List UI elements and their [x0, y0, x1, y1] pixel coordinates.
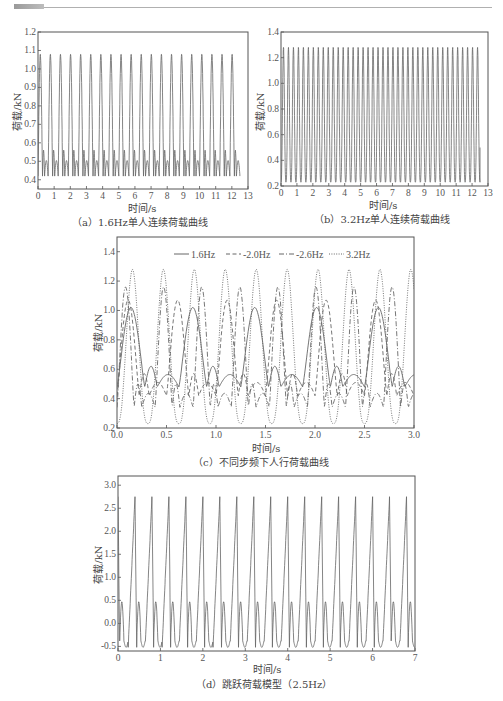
svg-text:7: 7 [413, 653, 418, 663]
svg-text:0.8: 0.8 [24, 101, 36, 111]
svg-text:10: 10 [435, 188, 445, 198]
series-1.6Hz [38, 54, 240, 176]
svg-text:1: 1 [158, 653, 163, 663]
svg-text:11: 11 [211, 191, 220, 201]
svg-text:0.8: 0.8 [103, 335, 115, 345]
svg-text:0.4: 0.4 [103, 394, 115, 404]
svg-text:1.6Hz: 1.6Hz [191, 249, 216, 260]
svg-text:5: 5 [358, 188, 363, 198]
svg-text:6: 6 [370, 653, 375, 663]
svg-text:1.4: 1.4 [103, 247, 115, 257]
svg-text:2.5: 2.5 [104, 503, 116, 513]
svg-text:1: 1 [295, 188, 300, 198]
svg-text:0.5: 0.5 [104, 595, 116, 605]
chart-b-axes: 0123456789101112130.20.40.60.81.01.21.4 [267, 27, 493, 198]
svg-text:0.7: 0.7 [24, 119, 36, 129]
svg-text:4: 4 [100, 191, 105, 201]
svg-text:0.0: 0.0 [104, 618, 116, 628]
svg-text:2.0: 2.0 [309, 430, 321, 440]
svg-text:0.4: 0.4 [267, 155, 279, 165]
svg-text:3.0: 3.0 [408, 430, 420, 440]
chart-b-ylabel: 荷载/kN [252, 92, 267, 130]
svg-text:2: 2 [310, 188, 315, 198]
chart-a-xlabel: 时间/s [128, 200, 157, 215]
svg-text:1.0: 1.0 [267, 78, 279, 88]
svg-text:1.0: 1.0 [104, 572, 116, 582]
svg-text:3: 3 [84, 191, 89, 201]
chart-c-ylabel: 荷载/kN [90, 313, 105, 351]
series-3.2Hz [281, 47, 480, 182]
svg-text:1.5: 1.5 [260, 430, 272, 440]
chart-c-axes: 0.00.51.01.52.02.53.00.20.40.60.81.01.21… [103, 237, 420, 440]
svg-text:0.6: 0.6 [103, 364, 115, 374]
svg-text:8: 8 [165, 191, 170, 201]
svg-text:9: 9 [181, 191, 186, 201]
svg-text:3.0: 3.0 [104, 480, 116, 490]
svg-text:0: 0 [36, 191, 41, 201]
svg-text:0.5: 0.5 [24, 156, 36, 166]
svg-text:-2.6Hz: -2.6Hz [296, 249, 324, 260]
chart-d-caption: （d）跳跃荷载模型（2.5Hz） [196, 676, 332, 691]
svg-text:13: 13 [243, 191, 253, 201]
chart-c-caption: （c）不同步频下人行荷载曲线 [193, 454, 329, 469]
chart-a-axes: 0123456789101112130.40.50.60.70.80.91.01… [24, 27, 253, 201]
svg-text:0: 0 [116, 653, 121, 663]
svg-text:1.1: 1.1 [24, 45, 36, 55]
chart-c-legend: 1.6Hz-2.0Hz-2.6Hz3.2Hz [174, 249, 371, 260]
series-1.6Hz [117, 308, 414, 387]
svg-text:1.2: 1.2 [267, 53, 279, 63]
svg-text:5: 5 [116, 191, 121, 201]
svg-text:4: 4 [285, 653, 290, 663]
chart-d-ylabel: 荷载/kN [90, 545, 105, 583]
chart-a-caption: （a）1.6Hz单人连续荷载曲线 [72, 214, 208, 229]
chart-c-xlabel: 时间/s [252, 440, 281, 455]
svg-text:12: 12 [467, 188, 477, 198]
svg-text:3: 3 [243, 653, 248, 663]
svg-text:2: 2 [68, 191, 73, 201]
svg-text:1.2: 1.2 [103, 276, 115, 286]
svg-text:4: 4 [342, 188, 347, 198]
svg-text:0.4: 0.4 [24, 175, 36, 185]
svg-text:13: 13 [483, 188, 493, 198]
series-2.5Hz jump [118, 497, 415, 648]
svg-text:1: 1 [52, 191, 57, 201]
svg-text:-2.0Hz: -2.0Hz [243, 249, 271, 260]
svg-text:12: 12 [227, 191, 237, 201]
svg-text:1.0: 1.0 [103, 305, 115, 315]
svg-text:9: 9 [422, 188, 427, 198]
svg-text:0.2: 0.2 [267, 181, 279, 191]
svg-text:2.0: 2.0 [104, 526, 116, 536]
svg-text:1.2: 1.2 [24, 27, 36, 37]
chart-a-ylabel: 荷载/kN [9, 92, 24, 130]
chart-d-axes: 01234567-0.50.00.51.01.52.02.53.0 [101, 476, 418, 663]
svg-text:10: 10 [195, 191, 205, 201]
svg-text:0.6: 0.6 [267, 130, 279, 140]
svg-text:0.5: 0.5 [161, 430, 173, 440]
svg-text:0: 0 [279, 188, 284, 198]
svg-text:3.2Hz: 3.2Hz [346, 249, 371, 260]
svg-text:2.5: 2.5 [359, 430, 371, 440]
svg-text:2: 2 [200, 653, 205, 663]
svg-text:-0.5: -0.5 [101, 641, 116, 651]
svg-text:3: 3 [326, 188, 331, 198]
svg-text:1.0: 1.0 [24, 64, 36, 74]
chart-d-xlabel: 时间/s [253, 661, 282, 676]
svg-text:11: 11 [452, 188, 461, 198]
svg-text:8: 8 [406, 188, 411, 198]
svg-text:1.5: 1.5 [104, 549, 116, 559]
svg-text:1.0: 1.0 [210, 430, 222, 440]
svg-text:5: 5 [328, 653, 333, 663]
chart-b-xlabel: 时间/s [369, 197, 398, 212]
svg-text:0.8: 0.8 [267, 104, 279, 114]
chart-b-caption: （b）3.2Hz单人连续荷载曲线 [314, 211, 450, 226]
svg-text:0.6: 0.6 [24, 138, 36, 148]
svg-text:0.9: 0.9 [24, 82, 36, 92]
svg-text:1.4: 1.4 [267, 27, 279, 37]
svg-text:0.2: 0.2 [103, 423, 115, 433]
